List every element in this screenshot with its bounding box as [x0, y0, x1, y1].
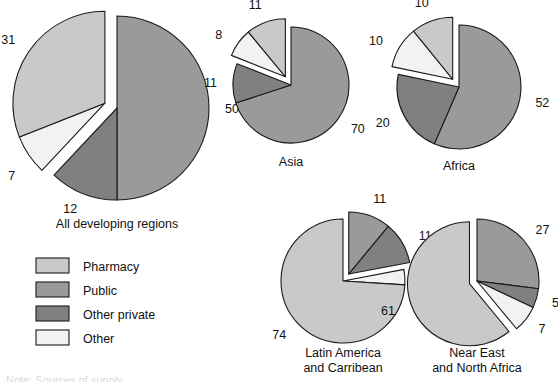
slice-value-label: 27 [536, 223, 550, 237]
legend-label-pharmacy: Pharmacy [83, 260, 140, 274]
legend-swatch-other-private [36, 306, 69, 321]
chart-title: and Carribean [303, 361, 382, 375]
chart-title: Latin America [305, 346, 381, 360]
slice-value-label: 7 [8, 169, 15, 183]
pie-slice-public [117, 16, 209, 200]
chart-title: Near East [449, 346, 505, 360]
pie-chart-2: 7011811Asia [204, 0, 365, 169]
slice-value-label: 10 [369, 34, 383, 48]
slice-value-label: 11 [373, 192, 386, 206]
chart-title: Africa [443, 159, 475, 173]
pie-chart-5: 275761Near Eastand North Africa [381, 219, 558, 375]
legend-label-public: Public [83, 284, 117, 298]
chart-title: All developing regions [56, 217, 178, 231]
pie-chart-3: 52201010Africa [369, 0, 549, 173]
slice-value-label: 31 [1, 33, 15, 47]
pie-chart-1: 5012731All developing regions [1, 11, 239, 231]
slice-value-label: 74 [272, 328, 286, 342]
legend-label-other: Other [83, 332, 114, 346]
slice-value-label: 52 [535, 96, 549, 110]
slice-value-label: 7 [539, 322, 546, 336]
pie-slice-public [477, 219, 539, 289]
slice-value-label: 70 [351, 122, 365, 136]
slice-value-label: 8 [215, 28, 222, 42]
legend-swatch-public [36, 282, 69, 297]
slice-value-label: 11 [204, 76, 217, 90]
legend: PharmacyPublicOther privateOther [36, 258, 155, 346]
slice-value-label: 61 [381, 304, 395, 318]
pie-chart-figure: 5012731All developing regions7011811Asia… [0, 0, 558, 382]
slice-value-label: 5 [552, 296, 558, 310]
legend-swatch-other [36, 330, 69, 345]
cropped-caption-fragment: Note: Sources of supply [6, 375, 176, 382]
chart-title: and North Africa [432, 361, 522, 375]
slice-value-label: 10 [415, 0, 429, 10]
legend-swatch-pharmacy [36, 258, 69, 273]
chart-title: Asia [279, 155, 303, 169]
slice-value-label: 20 [376, 116, 390, 130]
pie-chart-svg-canvas: 5012731All developing regions7011811Asia… [0, 0, 558, 382]
slice-value-label: 11 [249, 0, 262, 12]
slice-value-label: 12 [63, 202, 77, 216]
legend-label-other-private: Other private [83, 308, 155, 322]
